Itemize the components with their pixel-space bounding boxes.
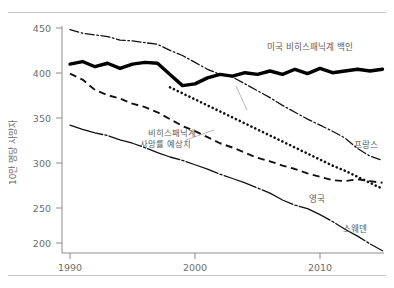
y-tick-label-350: 350 [33, 113, 51, 124]
bottom-divider-rule [8, 275, 386, 276]
leader-us-dip [236, 86, 247, 110]
series-label-us-white: 미국 비히스패닉계 백인 [267, 41, 352, 52]
top-divider-rule [8, 12, 386, 13]
series-paths [70, 30, 383, 251]
x-tick-label-2000: 2000 [183, 262, 207, 273]
y-tick-label-450: 450 [33, 23, 51, 34]
x-axis-ticks: 1990 2000 2010 [58, 253, 332, 273]
y-axis-title: 10만 명당 사망자 [8, 119, 18, 185]
line-chart-svg: 10만 명당 사망자 450 400 350 300 250 200 1990 … [0, 0, 394, 288]
x-tick-label-1990: 1990 [58, 262, 82, 273]
y-tick-label-300: 300 [33, 158, 51, 169]
series-label-uk: 영국 [309, 194, 325, 204]
projection-annotation-line1: 비히스패닉계 [148, 128, 196, 138]
series-label-sweden: 스웨덴 [343, 223, 367, 234]
y-tick-label-200: 200 [33, 238, 51, 249]
chart-figure: 10만 명당 사망자 450 400 350 300 250 200 1990 … [0, 0, 394, 288]
series-line-us-white [70, 62, 383, 86]
projection-annotation-line2: 사망률 예상치 [140, 139, 191, 149]
series-line-sweden [70, 125, 383, 251]
series-line-uk [70, 74, 383, 183]
y-tick-label-250: 250 [33, 203, 51, 214]
x-tick-label-2010: 2010 [308, 262, 332, 273]
series-line-projection [170, 87, 383, 188]
y-axis-ticks: 450 400 350 300 250 200 [33, 23, 62, 249]
series-label-france: 프랑스 [354, 139, 378, 150]
y-tick-label-400: 400 [33, 68, 51, 79]
